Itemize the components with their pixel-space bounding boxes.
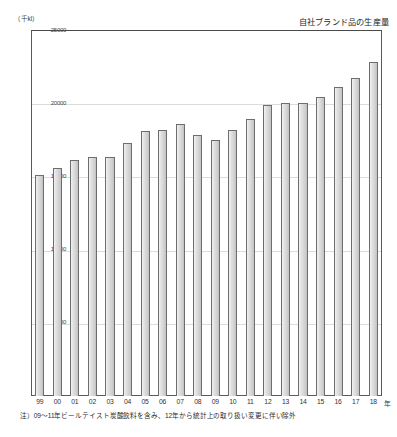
x-axis-tick-label: 09 [207, 398, 225, 405]
x-axis-unit-label: 年 [384, 398, 391, 408]
x-axis-tick-label: 99 [31, 398, 49, 405]
bar[interactable] [141, 131, 150, 396]
bar[interactable] [281, 103, 290, 396]
bar[interactable] [158, 130, 167, 396]
x-axis-tick-label: 10 [224, 398, 242, 405]
y-axis-unit-label: （千kl） [14, 13, 39, 23]
bar-slot [88, 30, 97, 396]
x-axis-tick-label: 00 [49, 398, 67, 405]
bar-slot [351, 30, 360, 396]
chart-footnote: 注）09～11年ビールテイスト炭酸飲料を含み、12年から統計上の取り扱い変更に伴… [20, 412, 392, 420]
bar[interactable] [35, 175, 44, 396]
bar-slot [369, 30, 378, 396]
chart-title: 自社ブランド品の生産量 [299, 15, 389, 27]
bar[interactable] [351, 78, 360, 396]
bar[interactable] [176, 124, 185, 396]
bar[interactable] [298, 103, 307, 396]
bar[interactable] [316, 97, 325, 396]
bar[interactable] [53, 168, 62, 396]
bar-slot [141, 30, 150, 396]
bar[interactable] [123, 143, 132, 396]
bar-slot [176, 30, 185, 396]
bar-slot [211, 30, 220, 396]
bar[interactable] [263, 105, 272, 396]
x-axis-tick-label: 14 [294, 398, 312, 405]
x-axis-tick-label: 16 [329, 398, 347, 405]
bar-slot [316, 30, 325, 396]
bar-slot [70, 30, 79, 396]
x-axis-tick-label: 07 [171, 398, 189, 405]
bars-group [31, 30, 382, 396]
x-axis-tick-label: 11 [242, 398, 260, 405]
x-axis-tick-label: 02 [84, 398, 102, 405]
bar-slot [263, 30, 272, 396]
x-axis-tick-label: 18 [364, 398, 382, 405]
bar-slot [35, 30, 44, 396]
bar-slot [228, 30, 237, 396]
bar-slot [123, 30, 132, 396]
bar-slot [298, 30, 307, 396]
x-axis-tick-labels: 9900010203040506070809101112131415161718 [31, 398, 382, 412]
bar-slot [334, 30, 343, 396]
bar-slot [246, 30, 255, 396]
bar[interactable] [246, 119, 255, 396]
bar[interactable] [70, 160, 79, 396]
x-axis-tick-label: 06 [154, 398, 172, 405]
bar-slot [105, 30, 114, 396]
bar-slot [53, 30, 62, 396]
x-axis-tick-label: 03 [101, 398, 119, 405]
bar[interactable] [88, 157, 97, 396]
bar-slot [281, 30, 290, 396]
caption-strip [104, 430, 294, 437]
x-axis-tick-label: 13 [277, 398, 295, 405]
bar-slot [193, 30, 202, 396]
x-axis-tick-label: 05 [136, 398, 154, 405]
x-axis-tick-label: 15 [312, 398, 330, 405]
bar[interactable] [193, 135, 202, 396]
x-axis-tick-label: 08 [189, 398, 207, 405]
bar[interactable] [369, 62, 378, 396]
x-axis-tick-label: 04 [119, 398, 137, 405]
bar[interactable] [334, 87, 343, 396]
x-axis-tick-label: 01 [66, 398, 84, 405]
bar[interactable] [105, 157, 114, 396]
x-axis-tick-label: 12 [259, 398, 277, 405]
bar[interactable] [228, 130, 237, 396]
figure-container: （千kl） 自社ブランド品の生産量 2500020000150001000050… [0, 0, 397, 437]
x-axis-tick-label: 17 [347, 398, 365, 405]
bar[interactable] [211, 140, 220, 396]
bar-slot [158, 30, 167, 396]
